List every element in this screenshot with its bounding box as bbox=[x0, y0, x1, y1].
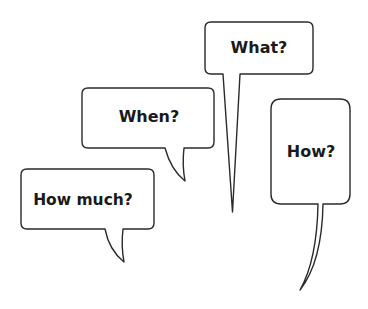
bubble-how-much: How much? bbox=[21, 169, 154, 262]
bubble-when: When? bbox=[82, 88, 214, 181]
bubble-how-much-outline bbox=[21, 169, 154, 262]
bubble-how-outline bbox=[271, 99, 350, 290]
bubble-how-much-label: How much? bbox=[33, 191, 133, 209]
bubble-how-label: How? bbox=[287, 142, 335, 161]
bubble-what-label: What? bbox=[231, 38, 288, 57]
bubble-when-outline bbox=[82, 88, 214, 181]
bubble-how: How? bbox=[271, 99, 350, 290]
bubble-when-label: When? bbox=[119, 107, 180, 126]
speech-bubbles-diagram: What? When? How much? How? bbox=[0, 0, 368, 309]
